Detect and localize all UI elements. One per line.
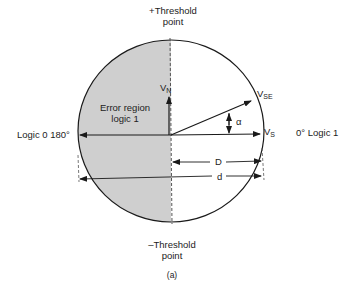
plus-threshold-label: +Threshold point [138,5,208,27]
vse-label: VSE [257,88,273,102]
minus-threshold-label: –Threshold point [137,239,207,261]
vn-sub: N [166,87,171,94]
error-region-line2: logic 1 [92,113,158,124]
vse-sub: SE [263,93,272,100]
dim-D-right [226,161,261,162]
minus-threshold-line2: point [137,250,207,261]
vs-label: VS [264,126,275,140]
dimension-D-label: D [215,156,222,167]
logic1-label: 0° Logic 1 [296,127,338,138]
error-region-label: Error region logic 1 [92,102,158,124]
dimension-d-label: d [217,171,222,182]
error-region-line1: Error region [92,102,158,113]
logic0-label: Logic 0 180° [17,129,70,140]
error-region-shading [78,40,171,222]
minus-threshold-line1: –Threshold [137,239,207,250]
vs-arrow [171,134,260,135]
figure-caption: (a) [157,270,187,281]
vs-sub: S [270,131,275,138]
plus-threshold-line2: point [138,16,208,27]
alpha-label: α [236,116,242,127]
plus-threshold-line1: +Threshold [138,5,208,16]
vn-label: VN [160,82,171,96]
